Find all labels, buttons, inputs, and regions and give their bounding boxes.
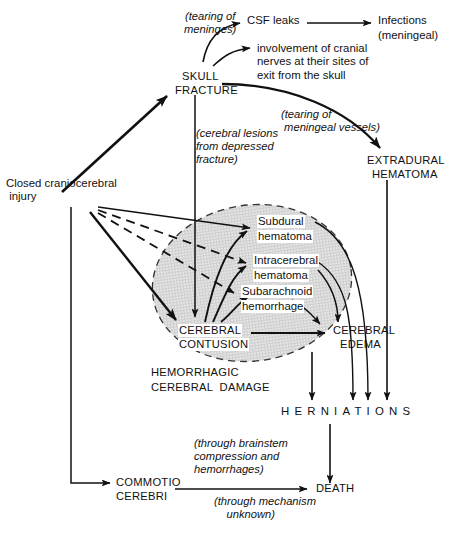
annotation-tearing-meninges: (tearing of meninges) — [184, 10, 236, 36]
node-extradural-hematoma-line2: HEMATOMA — [372, 168, 438, 181]
annotation-cerebral-lesions: (cerebral lesions from depressed fractur… — [196, 127, 278, 167]
arrow-injury-to-commotio-cerebri — [71, 207, 110, 483]
annotation-mechanism-unknown: (through mechanism unknown) — [214, 495, 316, 521]
node-intracerebral-hematoma-line1: Intracerebral — [253, 254, 319, 267]
node-extradural-hematoma-line1: EXTRADURAL — [367, 154, 445, 167]
node-intracerebral-hematoma-line2: hematoma — [253, 269, 309, 282]
annotation-tearing-meningeal-vessels: (tearing of meningeal vessels) — [281, 108, 380, 134]
node-cranial-nerve-involvement: involvement of cranial nerves at their s… — [257, 42, 368, 82]
node-hemorrhagic-damage-line1: HEMORRHAGIC — [151, 366, 239, 379]
node-commotio-cerebri-line1: COMMOTIO — [116, 476, 181, 489]
node-infections-qualifier: (meningeal) — [378, 29, 438, 42]
node-cerebral-edema-line2: EDEMA — [340, 338, 381, 351]
node-skull-fracture-line1: SKULL — [182, 70, 219, 83]
node-csf-leaks: CSF leaks — [247, 14, 300, 27]
node-commotio-cerebri-line2: CEREBRI — [116, 490, 167, 503]
node-cerebral-contusion-line2: CONTUSION — [178, 338, 249, 351]
arrow-skull-fracture-to-cranial-nerves — [213, 48, 250, 66]
node-skull-fracture-line2: FRACTURE — [175, 84, 238, 97]
node-hemorrhagic-damage-line2: CEREBRAL DAMAGE — [151, 381, 270, 394]
node-subarachnoid-hemorrhage-line1: Subarachnoid — [241, 285, 313, 298]
hemorrhagic-damage-ellipse — [142, 192, 362, 374]
annotation-brainstem-compression: (through brainstem compression and hemor… — [194, 437, 288, 477]
node-herniations: HERNIATIONS — [281, 405, 415, 418]
node-cerebral-contusion-line1: CEREBRAL — [178, 324, 242, 337]
node-subdural-hematoma-line1: Subdural — [257, 215, 305, 228]
node-death: DEATH — [316, 482, 354, 495]
node-closed-craniocerebral-injury: Closed craniocerebral injury — [6, 177, 117, 204]
node-infections: Infections — [378, 14, 427, 27]
node-subarachnoid-hemorrhage-line2: hemorrhage — [241, 300, 304, 313]
node-cerebral-edema-line1: CEREBRAL — [333, 324, 395, 337]
node-subdural-hematoma-line2: hematoma — [257, 230, 313, 243]
